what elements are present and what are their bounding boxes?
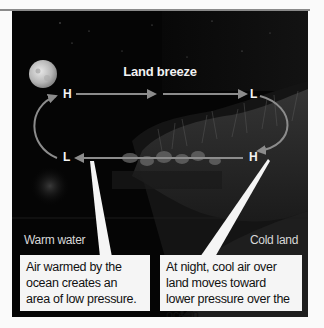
pressure-low-bottom-left: L (63, 150, 70, 164)
land-breeze-illustration: Land breeze H L L H Warm water Cold land… (12, 11, 308, 317)
moon-reflection (30, 166, 70, 206)
left-callout-pointer (90, 161, 112, 257)
diagram-title: Land breeze (12, 64, 308, 79)
callout-cool-land: At night, cool air over land moves towar… (160, 255, 302, 311)
callout-warm-water: Air warmed by the ocean creates an area … (20, 255, 150, 311)
cold-land-label: Cold land (250, 233, 298, 247)
arrow-left-arc (34, 96, 57, 158)
pressure-low-top-right: L (250, 87, 257, 101)
warm-water-label: Warm water (24, 233, 85, 247)
pressure-high-top-left: H (63, 87, 72, 101)
pressure-high-bottom-right: H (249, 150, 258, 164)
